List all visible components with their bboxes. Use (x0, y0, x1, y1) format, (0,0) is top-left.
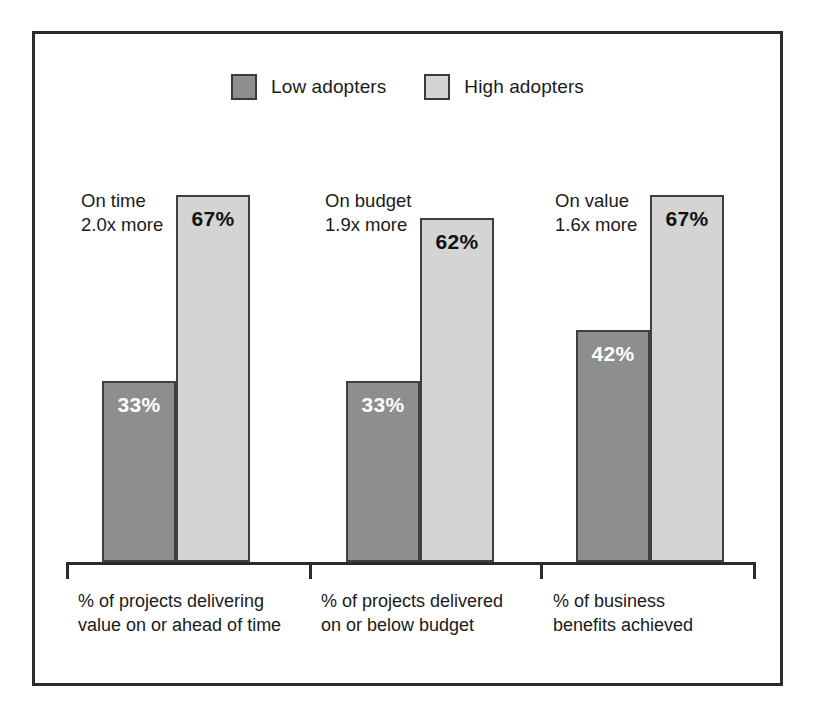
bar-value-low-adopters-on-time: 33% (118, 393, 161, 417)
axis-tick-start (66, 562, 69, 579)
category-label-on-value-line2: benefits achieved (553, 614, 693, 638)
category-label-on-budget-line1: % of projects delivered (321, 590, 503, 614)
axis-baseline (66, 562, 756, 565)
category-label-on-time: % of projects delivering value on or ahe… (78, 590, 281, 638)
category-label-on-budget-line2: on or below budget (321, 614, 503, 638)
bar-low-adopters-on-time[interactable]: 33% (102, 381, 176, 562)
plot-area: On time 2.0x more 33% 67% On budget 1.9x… (35, 34, 780, 683)
group-annotation-on-budget: On budget 1.9x more (325, 189, 411, 236)
axis-tick-end (753, 562, 756, 579)
bar-low-adopters-on-budget[interactable]: 33% (346, 381, 420, 562)
bar-value-low-adopters-on-value: 42% (592, 342, 635, 366)
bar-high-adopters-on-time[interactable]: 67% (176, 195, 250, 562)
group-annotation-on-time-line1: On time (81, 189, 163, 213)
bar-value-high-adopters-on-budget: 62% (436, 230, 479, 254)
axis-tick-group-1-2 (309, 562, 312, 579)
group-annotation-on-budget-line1: On budget (325, 189, 411, 213)
axis-tick-group-2-3 (540, 562, 543, 579)
group-annotation-on-budget-line2: 1.9x more (325, 213, 411, 237)
group-annotation-on-value: On value 1.6x more (555, 189, 637, 236)
bar-value-high-adopters-on-value: 67% (666, 207, 709, 231)
category-label-on-value-line1: % of business (553, 590, 693, 614)
bar-high-adopters-on-value[interactable]: 67% (650, 195, 724, 562)
category-label-on-value: % of business benefits achieved (553, 590, 693, 638)
group-annotation-on-time: On time 2.0x more (81, 189, 163, 236)
group-annotation-on-value-line1: On value (555, 189, 637, 213)
bar-low-adopters-on-value[interactable]: 42% (576, 330, 650, 562)
bar-value-low-adopters-on-budget: 33% (362, 393, 405, 417)
bar-value-high-adopters-on-time: 67% (192, 207, 235, 231)
bar-high-adopters-on-budget[interactable]: 62% (420, 218, 494, 562)
group-annotation-on-time-line2: 2.0x more (81, 213, 163, 237)
group-annotation-on-value-line2: 1.6x more (555, 213, 637, 237)
category-label-on-budget: % of projects delivered on or below budg… (321, 590, 503, 638)
category-label-on-time-line2: value on or ahead of time (78, 614, 281, 638)
chart-figure: Low adopters High adopters On time 2.0x … (32, 31, 783, 686)
category-label-on-time-line1: % of projects delivering (78, 590, 281, 614)
